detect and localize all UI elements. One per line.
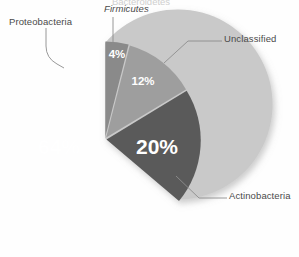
slice-value-actinobacteria: 20%	[136, 135, 178, 158]
slice-value-proteobacteria: 64%	[38, 135, 80, 158]
pie-chart-figure: Bacteroidetes 64% 20% 12% 4%	[0, 0, 299, 257]
pie-label-proteobacteria: Proteobacteria	[9, 16, 72, 27]
slice-value-unclassified: 12%	[131, 75, 154, 87]
pie-label-firmicutes: Firmicutes	[104, 3, 149, 14]
pie-label-actinobacteria: Actinobacteria	[229, 190, 291, 201]
pie-label-unclassified: Unclassified	[224, 33, 276, 44]
slice-value-firmicutes: 4%	[109, 48, 126, 60]
leader-line-proteobacteria	[46, 28, 64, 68]
